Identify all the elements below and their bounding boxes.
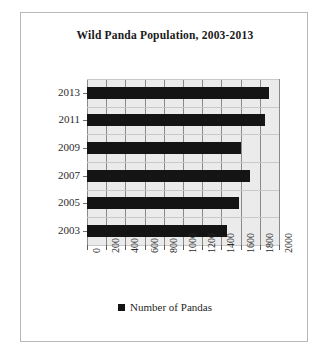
x-axis-label: 2000 [283,233,294,253]
x-axis-label: 400 [129,238,140,253]
bar [87,114,265,126]
x-axis-label: 200 [110,238,121,253]
y-axis-label: 2009 [34,141,80,153]
x-axis-label: 1800 [264,233,275,253]
y-axis-tick [83,203,87,204]
bar [87,142,241,154]
x-axis-tick [87,245,88,250]
bar [87,87,269,99]
x-axis-tick [164,245,165,250]
legend-marker-icon [118,304,125,311]
y-axis-label: 2003 [34,224,80,236]
x-axis-label: 0 [91,248,102,253]
bar-row: 2005 [87,190,279,218]
chart-title: Wild Panda Population, 2003-2013 [21,29,309,41]
y-axis-label: 2007 [34,169,80,181]
x-axis-tick [241,245,242,250]
x-axis-tick [279,245,280,250]
y-axis-label: 2005 [34,196,80,208]
x-axis-label: 1400 [225,233,236,253]
x-axis-tick [106,245,107,250]
x-axis-tick [145,245,146,250]
x-axis-tick [221,245,222,250]
y-axis-tick [83,231,87,232]
x-axis-tick [260,245,261,250]
bar [87,197,239,209]
chart-figure: Wild Panda Population, 2003-2013 2013201… [20,12,308,342]
bar-row: 2011 [87,107,279,135]
x-axis-label: 1000 [187,233,198,253]
y-axis-label: 2013 [34,86,80,98]
y-axis-tick [83,93,87,94]
plot-wrapper: 201320112009200720052003 [87,79,279,245]
y-axis-label: 2011 [34,113,80,125]
x-axis-tick [202,245,203,250]
y-axis-tick [83,176,87,177]
chart-legend: Number of Pandas [21,301,309,313]
bar-series: 201320112009200720052003 [87,79,279,245]
x-axis-label: 600 [149,238,160,253]
legend-label: Number of Pandas [130,301,212,313]
y-axis-tick [83,148,87,149]
gridline-vertical [279,79,280,245]
x-axis-label: 1600 [245,233,256,253]
y-axis-tick [83,120,87,121]
x-axis-tick [183,245,184,250]
x-axis-label: 800 [168,238,179,253]
x-axis-tick [125,245,126,250]
bar-row: 2013 [87,79,279,107]
x-axis-label: 1200 [206,233,217,253]
bar [87,170,250,182]
bar-row: 2007 [87,162,279,190]
x-axis: 0200400600800100012001400160018002000 [87,245,279,251]
bar-row: 2009 [87,134,279,162]
